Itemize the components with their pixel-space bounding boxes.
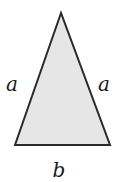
- left-side-label: a: [6, 72, 18, 96]
- triangle-shape: [15, 13, 110, 145]
- isosceles-triangle-diagram: a a b: [0, 0, 117, 182]
- right-side-label: a: [98, 72, 110, 96]
- base-label: b: [53, 158, 66, 182]
